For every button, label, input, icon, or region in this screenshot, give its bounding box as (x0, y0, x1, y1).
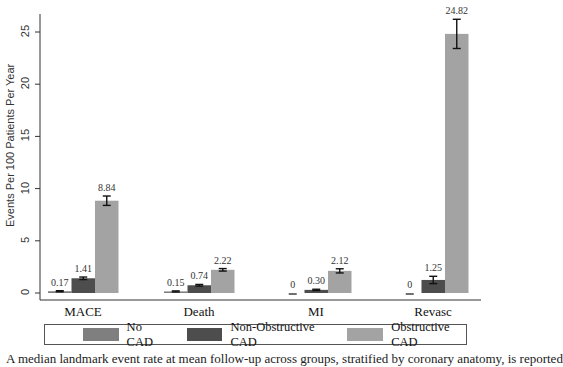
value-label: 2.12 (323, 255, 357, 266)
chart-legend: No CAD Non-Obstructive CAD Obstructive C… (44, 324, 467, 345)
legend-swatch (187, 328, 223, 341)
value-label: 0 (393, 279, 427, 290)
legend-swatch (83, 328, 119, 341)
y-tick-label: 5 (19, 230, 31, 250)
y-tick-label: 0 (19, 282, 31, 302)
bar (445, 34, 469, 293)
value-label: 0.74 (182, 270, 216, 281)
legend-label: Obstructive CAD (391, 320, 466, 350)
legend-label: No CAD (127, 320, 165, 350)
value-label: 1.25 (416, 262, 450, 273)
legend-item-no-cad: No CAD (83, 320, 165, 350)
x-category-label: Death (159, 304, 239, 320)
legend-item-obstructive-cad: Obstructive CAD (347, 320, 466, 350)
x-category-label: MACE (43, 304, 123, 320)
bar (95, 201, 119, 293)
y-tick-label: 20 (19, 73, 31, 93)
y-tick-label: 15 (19, 125, 31, 145)
value-label: 1.41 (66, 263, 100, 274)
value-label: 8.84 (90, 182, 124, 193)
y-tick-label: 10 (19, 178, 31, 198)
figure-caption: A median landmark event rate at mean fol… (6, 351, 563, 367)
x-category-label: Revasc (393, 304, 473, 320)
x-category-label: MI (276, 304, 356, 320)
value-label: 24.82 (440, 5, 474, 16)
legend-item-non-obstructive-cad: Non-Obstructive CAD (187, 320, 328, 350)
y-tick-label: 25 (19, 21, 31, 41)
legend-label: Non-Obstructive CAD (230, 320, 327, 350)
value-label: 2.22 (206, 255, 240, 266)
value-label: 0.30 (299, 275, 333, 286)
value-label: 0.17 (43, 277, 77, 288)
legend-swatch (347, 328, 383, 341)
